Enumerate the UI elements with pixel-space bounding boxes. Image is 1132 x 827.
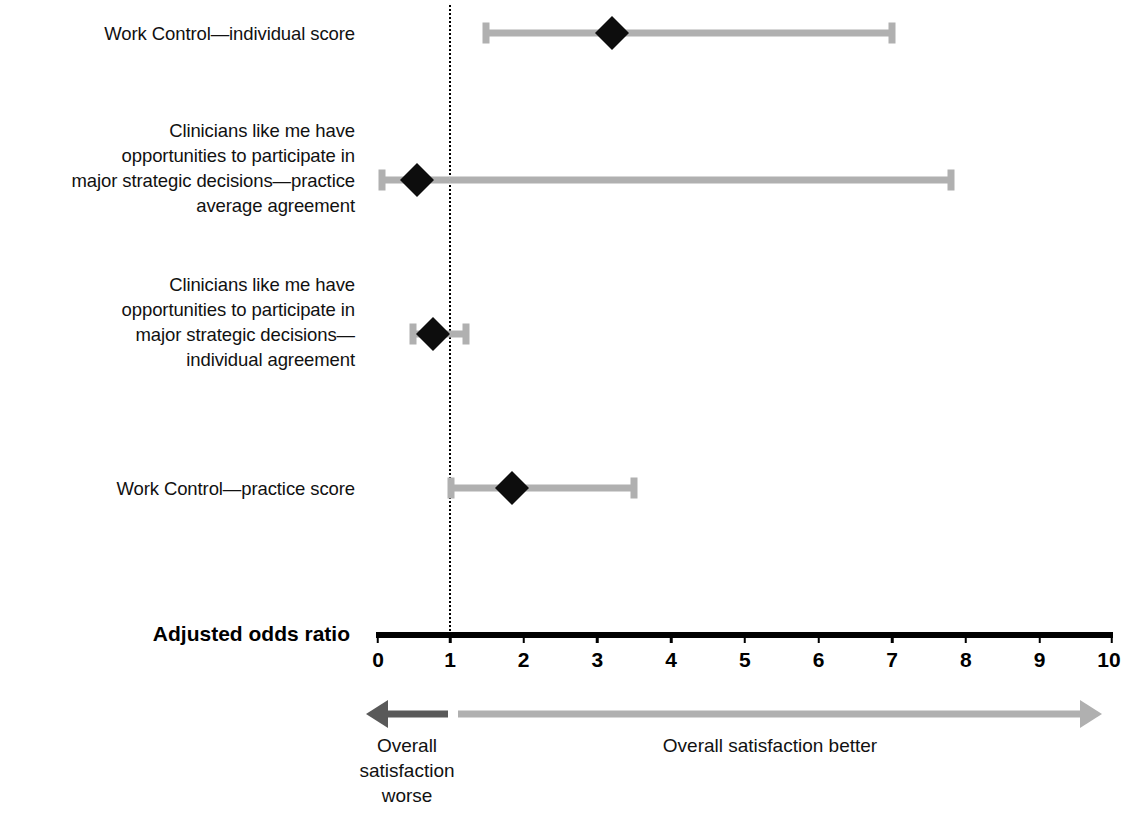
confidence-interval-cap-low-0 [483,23,490,44]
forest-plot-figure: Work Control—individual score Clinicians… [0,0,1132,827]
plot-area [0,0,1132,660]
axis-tick-0 [376,632,379,643]
confidence-interval-cap-high-0 [889,23,896,44]
axis-title-adjusted-odds-ratio: Adjusted odds ratio [0,622,350,646]
axis-tick-label-1: 1 [444,648,456,672]
confidence-interval-cap-low-1 [379,170,386,191]
axis-tick-label-10: 10 [1097,648,1120,672]
confidence-interval-cap-high-2 [463,324,470,345]
axis-tick-1 [449,632,452,643]
axis-tick-label-0: 0 [372,648,384,672]
axis-tick-label-2: 2 [518,648,530,672]
point-estimate-diamond-1 [400,163,434,197]
right-arrow-head-icon [1080,700,1102,728]
point-estimate-diamond-2 [416,317,450,351]
axis-tick-label-9: 9 [1034,648,1046,672]
confidence-interval-cap-high-1 [948,170,955,191]
confidence-interval-cap-low-3 [448,478,455,499]
axis-tick-label-3: 3 [592,648,604,672]
axis-tick-label-5: 5 [739,648,751,672]
left-arrow-shaft [386,711,448,718]
axis-tick-label-8: 8 [960,648,972,672]
confidence-interval-line-0 [486,30,890,37]
axis-tick-5 [744,632,747,643]
axis-tick-label-6: 6 [813,648,825,672]
confidence-interval-line-3 [450,485,634,492]
axis-tick-10 [1110,632,1113,643]
axis-tick-label-4: 4 [665,648,677,672]
axis-tick-3 [596,632,599,643]
axis-tick-label-7: 7 [886,648,898,672]
axis-tick-9 [1038,632,1041,643]
axis-tick-8 [965,632,968,643]
point-estimate-diamond-0 [595,16,629,50]
confidence-interval-line-1 [382,177,952,184]
axis-tick-4 [670,632,673,643]
left-arrow-head-icon [366,700,388,728]
axis-tick-7 [891,632,894,643]
reference-line-or-1 [449,5,451,635]
point-estimate-diamond-3 [495,471,529,505]
right-arrow-shaft [458,711,1083,718]
axis-tick-6 [817,632,820,643]
right-arrow-caption: Overall satisfaction better [450,733,1090,758]
confidence-interval-cap-high-3 [631,478,638,499]
axis-tick-2 [522,632,525,643]
